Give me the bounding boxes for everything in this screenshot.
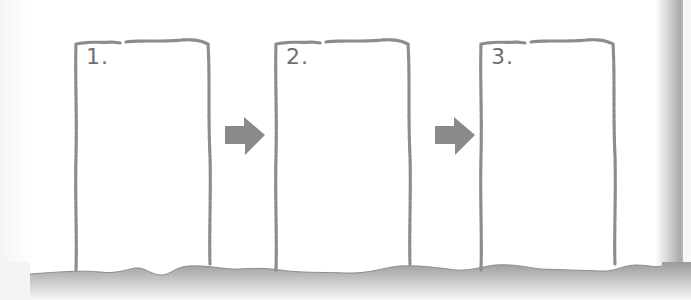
storyboard-frame-1: 1. bbox=[72, 36, 214, 272]
sketch-frame-border bbox=[272, 36, 414, 272]
arrow-right-icon bbox=[434, 116, 476, 156]
worksheet-paper: 1. 2. 3. bbox=[0, 0, 691, 300]
sketch-frame-border bbox=[72, 36, 214, 272]
storyboard-frame-3: 3. bbox=[477, 36, 619, 272]
sketch-frame-border bbox=[477, 36, 619, 272]
frame-label-2: 2. bbox=[286, 44, 309, 69]
arrow-right-icon bbox=[224, 116, 266, 156]
frame-label-1: 1. bbox=[86, 44, 109, 69]
paper-right-edge bbox=[683, 0, 691, 300]
frame-label-3: 3. bbox=[491, 44, 514, 69]
storyboard-frame-2: 2. bbox=[272, 36, 414, 272]
paper-left-fade bbox=[0, 0, 30, 300]
